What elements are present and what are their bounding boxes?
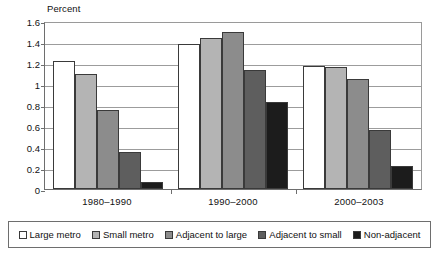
x-axis-tick-label: 2000–2003: [296, 196, 422, 212]
x-axis-tick-label: 1980–1990: [44, 196, 170, 212]
x-axis-tick-label: 1990–2000: [170, 196, 296, 212]
bar-groups: [45, 23, 421, 189]
plot-area: [44, 22, 422, 190]
legend-item[interactable]: Large metro: [19, 229, 81, 240]
y-axis-tick-label: 0.4: [8, 143, 40, 154]
y-axis-tick-label: 1: [8, 80, 40, 91]
legend-item-label: Adjacent to small: [269, 229, 341, 240]
legend-item-label: Large metro: [30, 229, 81, 240]
bar: [97, 110, 119, 189]
bar: [75, 74, 97, 190]
legend-swatch-icon: [165, 231, 173, 239]
y-axis-tick-label: 0: [8, 185, 40, 196]
legend-item[interactable]: Adjacent to large: [165, 229, 247, 240]
legend-swatch-icon: [92, 231, 100, 239]
legend-swatch-icon: [353, 231, 361, 239]
legend-item[interactable]: Adjacent to small: [258, 229, 341, 240]
bar-group: [170, 23, 295, 189]
bar: [178, 44, 200, 189]
y-axis-tick-label: 0.6: [8, 122, 40, 133]
bar-group: [45, 23, 170, 189]
legend-item[interactable]: Small metro: [92, 229, 154, 240]
y-axis-tick-label: 1.6: [8, 17, 40, 28]
legend-item-label: Small metro: [103, 229, 154, 240]
bar: [266, 102, 288, 189]
legend-item-label: Non-adjacent: [364, 229, 421, 240]
bar: [391, 166, 413, 189]
x-axis-tick-labels: 1980–19901990–20002000–2003: [44, 196, 422, 212]
x-axis-separator-tick: [296, 189, 297, 194]
y-axis-tick: [41, 191, 45, 192]
legend-swatch-icon: [258, 231, 266, 239]
y-axis-tick-label: 1.2: [8, 59, 40, 70]
bar: [119, 152, 141, 189]
bar: [347, 79, 369, 189]
x-axis-separator-tick: [171, 189, 172, 194]
legend-swatch-icon: [19, 231, 27, 239]
bar: [222, 32, 244, 190]
bar-chart: Percent 1.61.41.210.80.60.40.20 1980–199…: [0, 0, 439, 257]
y-axis-tick-label: 1.4: [8, 38, 40, 49]
legend-item-label: Adjacent to large: [176, 229, 247, 240]
bar: [303, 66, 325, 189]
bar: [53, 61, 75, 189]
bar: [141, 182, 163, 189]
bar: [369, 130, 391, 189]
bar-group: [296, 23, 421, 189]
y-axis-title: Percent: [47, 3, 80, 14]
bar: [200, 38, 222, 189]
y-axis-tick-labels: 1.61.41.210.80.60.40.20: [4, 22, 40, 190]
legend-item[interactable]: Non-adjacent: [353, 229, 421, 240]
bar: [325, 67, 347, 189]
y-axis-tick-label: 0.8: [8, 101, 40, 112]
chart-legend: Large metroSmall metroAdjacent to largeA…: [8, 221, 431, 248]
bar: [244, 70, 266, 189]
y-axis-tick-label: 0.2: [8, 164, 40, 175]
